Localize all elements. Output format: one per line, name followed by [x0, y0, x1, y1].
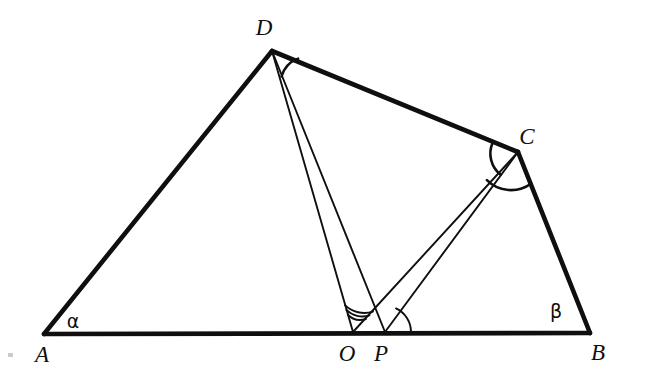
vertex-label-C: C: [519, 124, 535, 149]
segment-DC: [272, 51, 518, 152]
figure-canvas: A B C D O P α β: [0, 0, 645, 385]
segment-CP: [385, 152, 518, 332]
scan-speck: [8, 353, 13, 357]
segment-DO: [272, 51, 353, 332]
vertex-label-A: A: [33, 342, 50, 367]
angle-label-beta: β: [550, 300, 562, 322]
vertex-label-P: P: [373, 341, 388, 366]
angle-label-alpha: α: [67, 310, 80, 332]
segment-DP: [272, 51, 385, 332]
arc-at-C-outer: [487, 180, 531, 190]
arc-at-P: [396, 308, 411, 332]
vertex-labels: A B C D O P: [33, 15, 605, 367]
arc-at-C-inner: [490, 143, 500, 175]
segment-AD: [44, 51, 272, 334]
angle-arcs: [282, 59, 532, 332]
quadrilateral-outline: [44, 51, 590, 334]
segment-CO: [353, 152, 518, 332]
vertex-label-D: D: [255, 15, 273, 40]
angle-labels: α β: [67, 300, 562, 332]
geometry-figure: A B C D O P α β: [0, 0, 645, 385]
vertex-label-O: O: [339, 341, 356, 366]
vertex-label-B: B: [591, 340, 605, 365]
cevian-lines: [272, 51, 518, 332]
segment-AB: [44, 333, 590, 334]
